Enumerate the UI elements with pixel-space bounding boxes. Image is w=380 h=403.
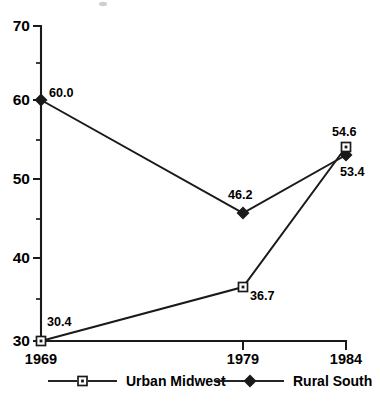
y-axis-label-40: 40 (13, 249, 30, 266)
data-label-urban-midwest-1984: 54.6 (332, 125, 357, 139)
chart-background (0, 0, 380, 403)
data-point-urban-midwest-1984 (342, 143, 351, 152)
x-axis-label-1969: 1969 (25, 351, 57, 367)
data-label-rural-south-1984: 53.4 (340, 165, 365, 179)
scan-artifact-speck (99, 2, 107, 6)
legend-marker-open-square-icon (78, 377, 87, 386)
y-axis-label-50: 50 (13, 170, 30, 187)
data-label-urban-midwest-1969: 30.4 (47, 315, 72, 329)
y-axis-label-30: 30 (13, 332, 30, 349)
line-chart: 70 60 50 40 30 1969 1979 1984 (0, 0, 380, 403)
x-axis-label-1979: 1979 (227, 351, 259, 367)
legend-label-rural-south: Rural South (293, 373, 372, 389)
data-label-rural-south-1969: 60.0 (49, 86, 74, 100)
data-label-urban-midwest-1979: 36.7 (250, 289, 275, 303)
legend-label-urban-midwest: Urban Midwest (126, 373, 226, 389)
data-label-rural-south-1979: 46.2 (228, 188, 253, 202)
y-axis-label-70: 70 (13, 17, 30, 34)
chart-canvas: 70 60 50 40 30 1969 1979 1984 (0, 0, 380, 403)
data-point-urban-midwest-1979 (239, 283, 248, 292)
y-axis-label-60: 60 (13, 91, 30, 108)
data-point-urban-midwest-1969 (37, 337, 46, 346)
x-axis-label-1984: 1984 (330, 351, 362, 367)
